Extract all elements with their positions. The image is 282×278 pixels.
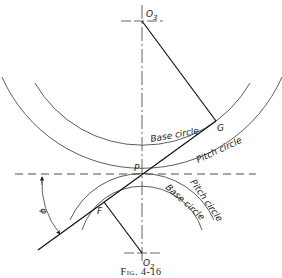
radius-o3-g [142, 21, 216, 121]
figure-caption: Fig. 4-16 [121, 266, 162, 277]
line-of-action [38, 121, 216, 250]
upper-base-circle [35, 83, 250, 145]
label-lower-pitch-circle: Pitch circle [188, 177, 225, 223]
gear-geometry-diagram: O3 O2 P G F φ Base circle Pitch circle P… [0, 0, 282, 278]
label-o3: O3 [146, 9, 158, 22]
pressure-angle-arc [42, 177, 60, 234]
label-g: G [217, 123, 224, 133]
label-f: F [97, 206, 103, 216]
label-p: P [134, 163, 140, 173]
radius-o2-f [104, 202, 142, 253]
label-upper-pitch-circle: Pitch circle [195, 135, 244, 165]
